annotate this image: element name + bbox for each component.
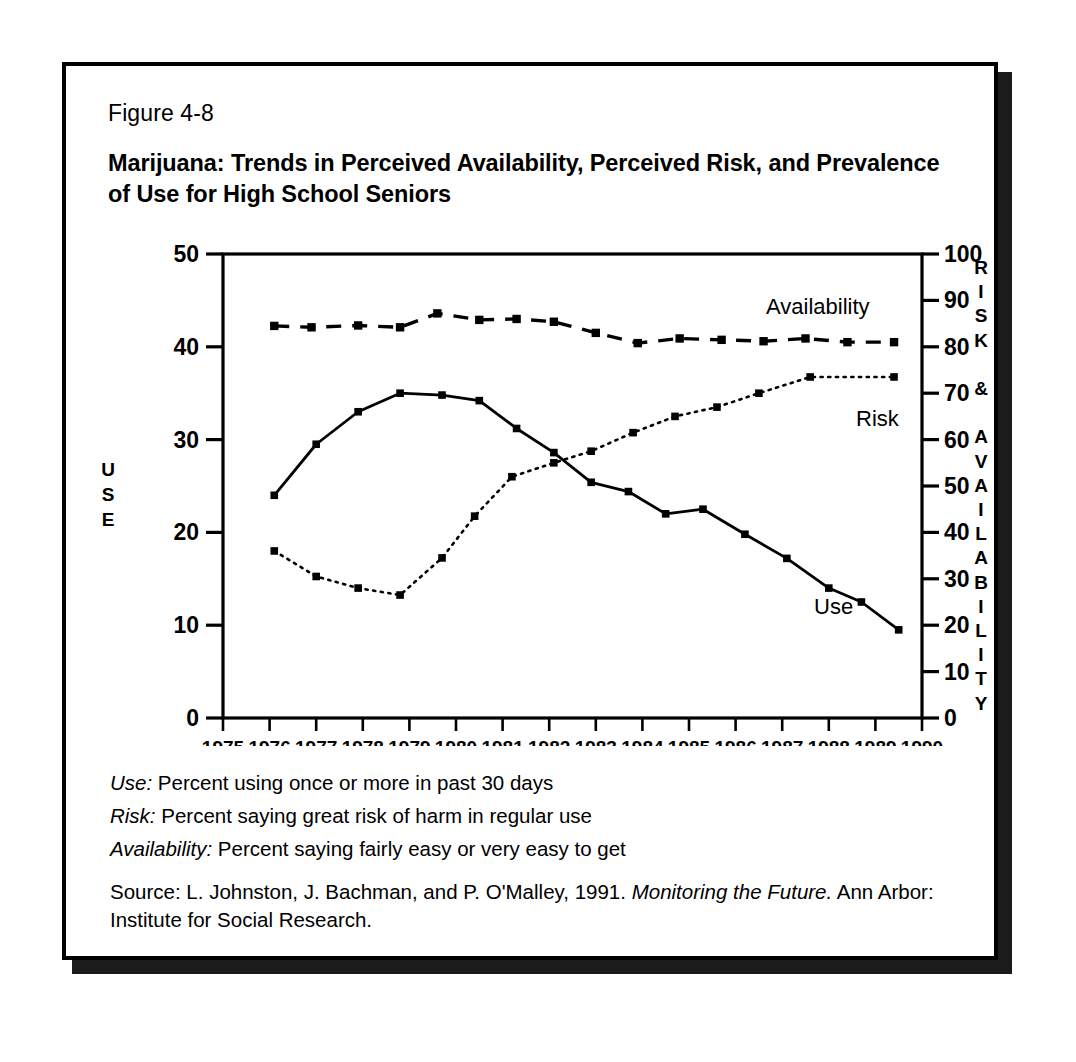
data-point-risk <box>890 373 898 381</box>
y-axis-label-right: 80 <box>944 334 970 360</box>
y-axis-label-right: 70 <box>944 380 970 406</box>
data-point-risk <box>312 573 320 581</box>
y-axis-title-right-letter: S <box>975 305 988 326</box>
x-axis-label-year: 1980 <box>435 737 477 746</box>
data-point-use <box>825 584 833 592</box>
note-risk-text: Percent saying great risk of harm in reg… <box>156 804 592 827</box>
x-axis-label-year: 1977 <box>295 737 337 746</box>
data-point-availability <box>307 323 315 331</box>
y-axis-label-right: 10 <box>944 659 970 685</box>
data-point-use <box>587 478 595 486</box>
source-prefix: Source: L. Johnston, J. Bachman, and P. … <box>110 880 632 903</box>
data-point-risk <box>471 512 479 520</box>
note-availability-text: Percent saying fairly easy or very easy … <box>212 837 626 860</box>
data-point-use <box>625 488 633 496</box>
y-axis-label-right: 40 <box>944 519 970 545</box>
data-point-risk <box>270 547 278 555</box>
data-point-use <box>354 408 362 416</box>
x-axis-label-year: 1982 <box>528 737 570 746</box>
y-axis-label-right: 30 <box>944 566 970 592</box>
figure-title: Marijuana: Trends in Perceived Availabil… <box>108 148 948 211</box>
series-label-availability: Availability <box>766 294 870 319</box>
data-point-use <box>699 505 707 513</box>
x-axis-label-year: 1985 <box>668 737 711 746</box>
x-axis-label-year: 1976 <box>248 737 290 746</box>
note-risk-term: Risk: <box>110 804 156 827</box>
note-use-text: Percent using once or more in past 30 da… <box>152 771 553 794</box>
note-availability: Availability: Percent saying fairly easy… <box>110 832 970 865</box>
series-line-risk <box>274 377 894 595</box>
y-axis-title-right-letter: I <box>978 644 983 665</box>
y-axis-title-left-letter: S <box>102 484 115 505</box>
y-axis-label-left: 40 <box>173 334 199 360</box>
data-point-availability <box>512 315 520 323</box>
x-axis-label-year: 1990 <box>901 737 943 746</box>
x-axis-label-year: 1988 <box>808 737 850 746</box>
y-axis-label-right: 60 <box>944 427 970 453</box>
note-use: Use: Percent using once or more in past … <box>110 766 970 799</box>
x-axis-label-year: 1986 <box>714 737 756 746</box>
y-axis-title-right-letter: R <box>974 257 988 278</box>
data-point-availability <box>759 337 767 345</box>
data-point-use <box>895 626 903 634</box>
data-point-risk <box>354 584 362 592</box>
data-point-risk <box>508 473 516 481</box>
data-point-availability <box>396 323 404 331</box>
y-axis-title-right-letter: L <box>975 523 987 544</box>
x-axis-label-year: 1984 <box>621 737 664 746</box>
y-axis-label-right: 20 <box>944 612 970 638</box>
data-point-availability <box>475 316 483 324</box>
data-point-use <box>312 440 320 448</box>
chart-area: 0102030405001020304050607080901001975197… <box>66 226 1002 746</box>
y-axis-label-left: 20 <box>173 519 199 545</box>
x-axis-label-year: 1989 <box>854 737 896 746</box>
data-point-availability <box>634 339 642 347</box>
y-axis-label-right: 0 <box>944 705 957 731</box>
x-axis-label-year: 1981 <box>481 737 524 746</box>
data-point-availability <box>843 338 851 346</box>
data-point-risk <box>671 413 679 421</box>
y-axis-title-right-letter: L <box>975 620 987 641</box>
data-point-risk <box>587 447 595 455</box>
data-point-risk <box>755 389 763 397</box>
note-availability-term: Availability: <box>110 837 212 860</box>
data-point-availability <box>801 334 809 342</box>
data-point-risk <box>438 554 446 562</box>
data-point-use <box>783 555 791 563</box>
data-point-availability <box>675 334 683 342</box>
marijuana-trends-line-chart: 0102030405001020304050607080901001975197… <box>66 226 1002 746</box>
y-axis-title-left-letter: E <box>102 509 115 530</box>
y-axis-title-right-letter: I <box>978 281 983 302</box>
y-axis-title-right-letter: I <box>978 499 983 520</box>
data-point-use <box>550 449 558 457</box>
data-point-risk <box>550 459 558 467</box>
x-axis-label-year: 1983 <box>575 737 617 746</box>
series-label-risk: Risk <box>856 406 900 431</box>
y-axis-title-right-letter: B <box>974 572 988 593</box>
figure-number: Figure 4-8 <box>108 100 214 127</box>
x-axis-label-year: 1987 <box>761 737 803 746</box>
data-point-use <box>662 510 670 518</box>
x-axis-label-year: 1978 <box>342 737 384 746</box>
legend-notes: Use: Percent using once or more in past … <box>110 766 970 866</box>
data-point-use <box>476 397 484 405</box>
data-point-risk <box>396 591 404 599</box>
data-point-availability <box>550 318 558 326</box>
series-label-use: Use <box>814 594 853 619</box>
y-axis-label-right: 90 <box>944 287 970 313</box>
y-axis-title-right-letter: Y <box>975 693 988 714</box>
data-point-availability <box>270 322 278 330</box>
data-point-risk <box>629 429 637 437</box>
data-point-use <box>396 389 404 397</box>
x-axis-label-year: 1979 <box>388 737 430 746</box>
y-axis-title-right-letter: & <box>974 378 988 399</box>
source-publication-title: Monitoring the Future. <box>632 880 833 903</box>
y-axis-title-left-letter: U <box>101 459 115 480</box>
y-axis-label-left: 30 <box>173 427 199 453</box>
y-axis-title-right-letter: K <box>974 330 988 351</box>
y-axis-title-right-letter: A <box>974 475 988 496</box>
y-axis-title-right-letter: T <box>975 668 987 689</box>
y-axis-label-left: 0 <box>186 705 199 731</box>
plot-frame <box>223 254 922 718</box>
x-axis-label-year: 1975 <box>202 737 245 746</box>
